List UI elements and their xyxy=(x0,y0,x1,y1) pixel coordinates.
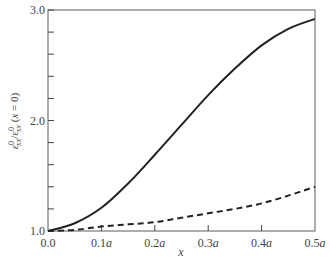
plot-border xyxy=(48,10,315,231)
x-tick-label: 0.3a xyxy=(198,236,219,250)
chart: 1.02.03.0 0.00.1a0.2a0.3a0.4a0.5a x ε0xx… xyxy=(0,0,330,263)
x-tick-label: 0.2a xyxy=(144,236,165,250)
series-solid-line xyxy=(48,19,315,231)
x-tick-label: 0.5a xyxy=(305,236,326,250)
x-tick-label: 0.1a xyxy=(91,236,112,250)
plot-frame xyxy=(48,10,315,231)
y-axis-ticks: 1.02.03.0 xyxy=(30,3,54,238)
y-tick-label: 3.0 xyxy=(30,3,45,17)
y-axis-label: ε0xx/ε0xx (x = 0) xyxy=(7,92,23,149)
x-tick-label: 0.0 xyxy=(41,236,56,250)
series-dashed-line xyxy=(48,187,315,231)
y-tick-label: 2.0 xyxy=(30,114,45,128)
x-tick-label: 0.4a xyxy=(251,236,272,250)
series-lines xyxy=(48,19,315,231)
x-axis-label: x xyxy=(177,245,184,259)
